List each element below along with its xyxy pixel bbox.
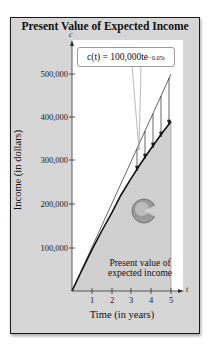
y-tick-label: 400,000 bbox=[24, 112, 68, 122]
x-tick-label: 3 bbox=[126, 295, 136, 305]
y-tick-label: 300,000 bbox=[24, 155, 68, 165]
y-tick-label: 500,000 bbox=[24, 69, 68, 79]
x-tick-label: 2 bbox=[107, 295, 117, 305]
area-label-line1: Present value of bbox=[101, 258, 179, 268]
y-tick-label: 200,000 bbox=[24, 199, 68, 209]
x-tick-label: 4 bbox=[146, 295, 156, 305]
x-tick-label: 1 bbox=[87, 295, 97, 305]
y-tick-label: 100,000 bbox=[24, 243, 68, 253]
x-tick-label: 5 bbox=[166, 295, 176, 305]
callout-exponent: −0.05t bbox=[148, 54, 165, 61]
y-axis-variable: c bbox=[69, 30, 73, 39]
y-axis-label: Income (in dollars) bbox=[12, 110, 23, 230]
area-label-line2: expected income bbox=[101, 268, 179, 278]
callout-formula: c(t) = 100,000te bbox=[87, 52, 148, 62]
function-callout: c(t) = 100,000te−0.05t bbox=[77, 47, 175, 67]
x-axis-label: Time (in years) bbox=[72, 309, 172, 320]
area-annotation: Present value of expected income bbox=[101, 258, 179, 278]
x-axis-variable: t bbox=[186, 285, 188, 294]
